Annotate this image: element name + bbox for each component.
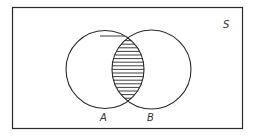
venn-diagram: S A B <box>0 0 253 136</box>
universe-rectangle <box>13 8 243 129</box>
set-a-label: A <box>99 112 107 123</box>
set-b-label: B <box>147 112 154 123</box>
universe-label: S <box>223 19 230 30</box>
